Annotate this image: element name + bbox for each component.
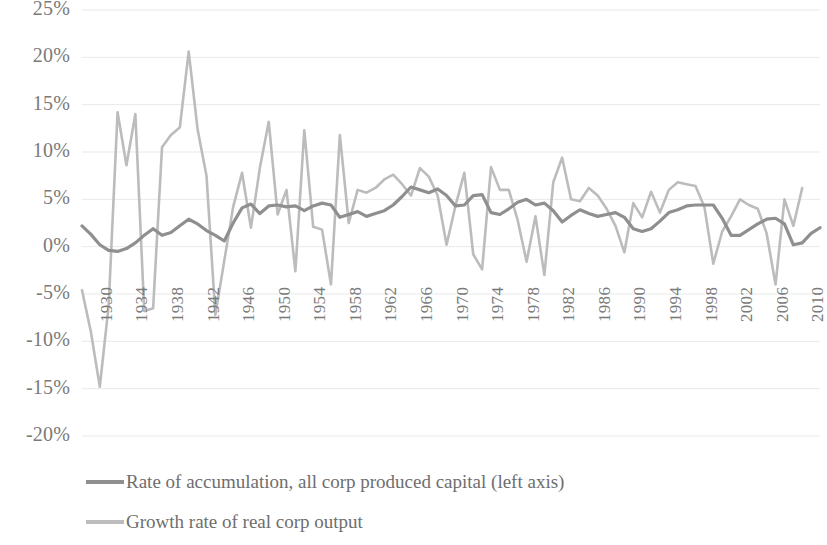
legend-item-growth: Growth rate of real corp output xyxy=(86,512,363,531)
y-axis-tick-label: 15% xyxy=(0,92,70,115)
x-axis-tick-label: 1942 xyxy=(204,287,224,322)
x-axis-tick-label: 1974 xyxy=(488,287,508,322)
x-axis-tick-label: 2006 xyxy=(773,287,793,322)
x-axis-tick-label: 1938 xyxy=(168,287,188,322)
x-axis-tick-label: 1982 xyxy=(559,287,579,322)
x-axis-tick-label: 1998 xyxy=(702,287,722,322)
x-axis-tick-label: 1946 xyxy=(239,287,259,322)
y-axis-tick-label: -15% xyxy=(0,376,70,399)
x-axis-tick-label: 2010 xyxy=(808,287,827,322)
y-axis-tick-label: 0% xyxy=(0,234,70,257)
legend-label-accumulation: Rate of accumulation, all corp produced … xyxy=(126,472,564,491)
legend-item-accumulation: Rate of accumulation, all corp produced … xyxy=(86,472,564,491)
x-axis-tick-label: 1978 xyxy=(524,287,544,322)
x-axis-tick-label: 1986 xyxy=(595,287,615,322)
x-axis-tick-label: 1954 xyxy=(310,287,330,322)
x-axis-tick-label: 1966 xyxy=(417,287,437,322)
y-axis-tick-label: -5% xyxy=(0,281,70,304)
x-axis-tick-label: 1962 xyxy=(381,287,401,322)
x-axis-tick-label: 1970 xyxy=(453,287,473,322)
legend-swatch-growth xyxy=(86,520,124,524)
chart-plot-area xyxy=(0,0,827,545)
legend-swatch-accumulation xyxy=(86,480,124,484)
legend-label-growth: Growth rate of real corp output xyxy=(126,512,363,531)
y-axis-tick-label: 10% xyxy=(0,139,70,162)
x-axis-tick-label: 1934 xyxy=(132,287,152,322)
chart-figure: 25%20%15%10%5%0%-5%-10%-15%-20% 19301934… xyxy=(0,0,827,545)
y-axis-tick-label: -20% xyxy=(0,423,70,446)
y-axis-tick-label: 25% xyxy=(0,0,70,20)
y-axis-tick-label: 20% xyxy=(0,44,70,67)
x-axis-tick-label: 2002 xyxy=(737,287,757,322)
data-series-layer xyxy=(82,52,820,387)
y-axis-tick-label: 5% xyxy=(0,186,70,209)
y-axis-tick-label: -10% xyxy=(0,328,70,351)
x-axis-tick-label: 1990 xyxy=(630,287,650,322)
x-axis-tick-label: 1930 xyxy=(97,287,117,322)
x-axis-tick-label: 1950 xyxy=(275,287,295,322)
x-axis-tick-label: 1958 xyxy=(346,287,366,322)
x-axis-tick-label: 1994 xyxy=(666,287,686,322)
